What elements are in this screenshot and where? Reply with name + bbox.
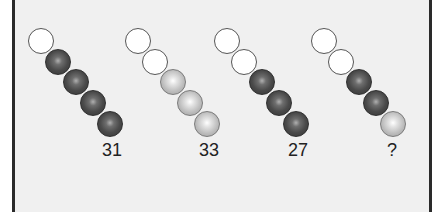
dark-ball-icon: [283, 111, 309, 137]
group-value-label: 31: [102, 141, 122, 159]
dark-ball-icon: [80, 90, 106, 116]
dark-ball-icon: [363, 90, 389, 116]
white-ball-icon: [328, 49, 354, 75]
white-ball-icon: [214, 28, 240, 54]
light-ball-icon: [160, 69, 186, 95]
group-value-label: 33: [199, 141, 219, 159]
white-ball-icon: [231, 49, 257, 75]
dark-ball-icon: [266, 90, 292, 116]
white-ball-icon: [311, 28, 337, 54]
group-value-label: 27: [288, 141, 308, 159]
dark-ball-icon: [97, 111, 123, 137]
light-ball-icon: [380, 111, 406, 137]
ball-group-4-unknown: ?: [0, 0, 1, 1]
light-ball-icon: [194, 111, 220, 137]
dark-ball-icon: [249, 69, 275, 95]
dark-ball-icon: [63, 69, 89, 95]
dark-ball-icon: [346, 69, 372, 95]
dark-ball-icon: [45, 49, 71, 75]
white-ball-icon: [125, 28, 151, 54]
group-value-question-label: ?: [387, 141, 397, 159]
white-ball-icon: [28, 28, 54, 54]
white-ball-icon: [142, 49, 168, 75]
light-ball-icon: [177, 90, 203, 116]
